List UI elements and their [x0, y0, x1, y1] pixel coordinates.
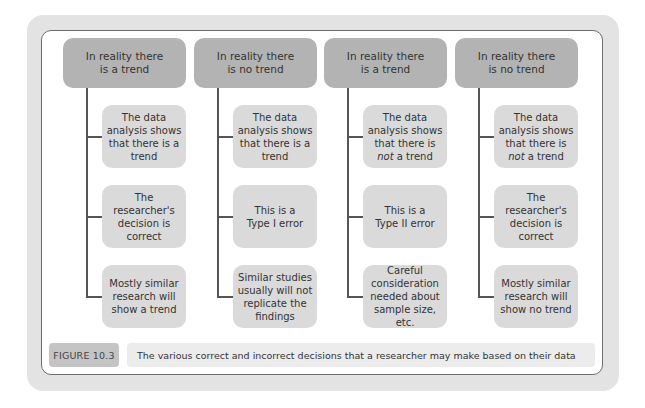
box-line: analysis shows [238, 125, 313, 136]
box-line: show a trend [112, 304, 177, 315]
box-line: analysis shows [499, 125, 574, 136]
reality-header-box: In reality thereis a trend [324, 38, 447, 88]
connector-horizontal [217, 296, 234, 298]
header-line: In reality there [347, 50, 424, 62]
box-line: needed about [370, 291, 440, 302]
connector-vertical [86, 88, 88, 298]
connector-horizontal [347, 136, 364, 138]
box-line: The data [122, 112, 166, 123]
connector-horizontal [478, 136, 495, 138]
box-line: consideration [371, 278, 439, 289]
box-line: research will [113, 291, 176, 302]
connector-horizontal [217, 136, 234, 138]
connector-vertical [217, 88, 219, 298]
box-line: The researcher's [505, 192, 566, 216]
header-line: In reality there [86, 50, 163, 62]
box-line: trend [131, 151, 158, 162]
replication-box: Mostly similarresearch willshow a trend [102, 265, 186, 328]
box-line: The data [514, 112, 558, 123]
box-line: analysis shows [368, 125, 443, 136]
box-line: a trend [394, 151, 433, 162]
box-line: This is a [255, 205, 296, 216]
box-line: decision is [510, 218, 562, 229]
emphasis-text: not [508, 151, 524, 162]
box-line: This is a [385, 205, 426, 216]
reality-header-box: In reality thereis no trend [194, 38, 317, 88]
decision-outcome-box: This is aType II error [363, 185, 447, 248]
connector-horizontal [86, 296, 103, 298]
box-line: trend [262, 151, 289, 162]
box-line: usually will not [238, 285, 313, 296]
box-line: that there is [374, 138, 435, 149]
replication-box: Carefulconsiderationneeded aboutsample s… [363, 265, 447, 328]
header-line: is no trend [227, 63, 283, 75]
box-line: analysis shows [107, 125, 182, 136]
header-line: is a trend [361, 63, 410, 75]
box-line: correct [126, 231, 161, 242]
box-line: The researcher's [113, 192, 174, 216]
box-line: Mostly similar [501, 278, 570, 289]
diagram-column: In reality thereis a trendThe dataanalys… [63, 38, 187, 338]
box-line: Careful [387, 265, 423, 276]
reality-header-box: In reality thereis a trend [63, 38, 186, 88]
connector-horizontal [478, 216, 495, 218]
decision-outcome-box: The researcher'sdecision iscorrect [494, 185, 578, 248]
connector-horizontal [478, 296, 495, 298]
box-line: that there is [505, 138, 566, 149]
reality-header-box: In reality thereis no trend [455, 38, 578, 88]
box-line: decision is [118, 218, 170, 229]
header-line: is no trend [488, 63, 544, 75]
box-line: a trend [525, 151, 564, 162]
diagram-column: In reality thereis no trendThe dataanaly… [194, 38, 318, 338]
analysis-result-box: The dataanalysis showsthat there is atre… [233, 105, 317, 168]
box-line: show no trend [500, 304, 571, 315]
emphasis-text: not [377, 151, 393, 162]
box-line: Type I error [247, 218, 303, 229]
header-line: In reality there [217, 50, 294, 62]
box-line: that there is a [240, 138, 310, 149]
box-line: The data [253, 112, 297, 123]
decision-outcome-box: The researcher'sdecision iscorrect [102, 185, 186, 248]
header-line: is a trend [100, 63, 149, 75]
analysis-result-box: The dataanalysis showsthat there isnot a… [494, 105, 578, 168]
diagram-column: In reality thereis no trendThe dataanaly… [455, 38, 579, 338]
box-line: Mostly similar [109, 278, 178, 289]
replication-box: Mostly similarresearch willshow no trend [494, 265, 578, 328]
analysis-result-box: The dataanalysis showsthat there is atre… [102, 105, 186, 168]
diagram-column: In reality thereis a trendThe dataanalys… [324, 38, 448, 338]
box-line: Similar studies [238, 272, 312, 283]
connector-horizontal [86, 136, 103, 138]
connector-horizontal [217, 216, 234, 218]
figure-caption: The various correct and incorrect decisi… [127, 343, 595, 367]
box-line: research will [505, 291, 568, 302]
box-line: Type II error [375, 218, 434, 229]
decision-outcome-box: This is aType I error [233, 185, 317, 248]
box-line: correct [518, 231, 553, 242]
analysis-result-box: The dataanalysis showsthat there isnot a… [363, 105, 447, 168]
box-line: The data [383, 112, 427, 123]
header-line: In reality there [478, 50, 555, 62]
box-line: findings [255, 311, 295, 322]
replication-box: Similar studiesusually will notreplicate… [233, 265, 317, 328]
box-line: sample size, etc. [374, 304, 436, 328]
connector-horizontal [347, 216, 364, 218]
connector-vertical [478, 88, 480, 298]
box-line: that there is a [109, 138, 179, 149]
figure-label: FIGURE 10.3 [49, 343, 119, 367]
connector-horizontal [347, 296, 364, 298]
connector-vertical [347, 88, 349, 298]
connector-horizontal [86, 216, 103, 218]
box-line: replicate the [243, 298, 306, 309]
